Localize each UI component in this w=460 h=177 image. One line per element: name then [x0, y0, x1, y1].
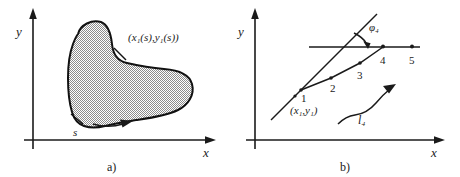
panel-a-y-axis-label: y	[14, 24, 22, 39]
panel-b-node-dot-3	[358, 61, 362, 65]
panel-b-start-point-dot	[293, 94, 296, 97]
panel-b-node-label-3: 3	[357, 69, 363, 81]
panel-b-node-label-2: 2	[330, 82, 336, 94]
panel-a-arclength-label: s	[73, 126, 77, 138]
panel-b-node-label-1: 1	[301, 92, 307, 104]
panel-b-node-label-4: 4	[380, 54, 386, 66]
figure-canvas: y x (x₁(s),y₁(s)) s a) y x	[0, 0, 460, 177]
panel-a-caption: a)	[107, 160, 116, 174]
panel-b-segment-label: l₄	[358, 113, 366, 127]
panel-b-caption: b)	[340, 160, 350, 174]
panel-b-node-dot-2	[329, 76, 333, 80]
panel-b-node-dot-5	[410, 45, 414, 49]
panel-a-curve-point-label: (x₁(s),y₁(s))	[128, 31, 179, 44]
panel-b-angle-label: φ₄	[369, 21, 379, 33]
panel-a-x-axis-label: x	[202, 145, 209, 160]
panel-b-start-point-label: (x₁,y₁)	[290, 104, 318, 117]
panel-b-x-axis-label: x	[430, 145, 437, 160]
panel-b-y-axis-label: y	[236, 24, 244, 39]
panel-b-node-label-5: 5	[409, 54, 415, 66]
panel-b-node-dot-4	[381, 45, 385, 49]
